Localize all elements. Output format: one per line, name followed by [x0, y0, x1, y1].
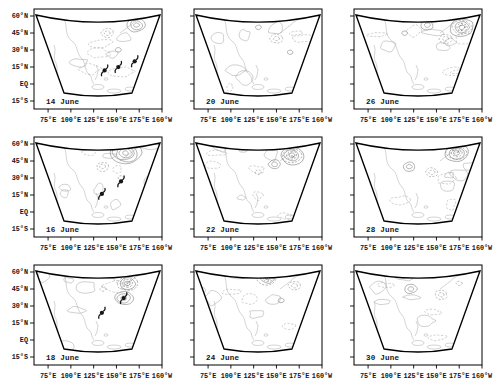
panel-canvas: 75°E100°E125°E150°E175°E160°W28 June	[322, 129, 482, 257]
panel-canvas: 75°E100°E125°E150°E175°E160°W20 June	[162, 1, 322, 129]
panel-grid: 60°N45°N30°N15°NEQ15°S75°E100°E125°E150°…	[2, 1, 482, 385]
lon-tick-label: 100°E	[381, 244, 401, 252]
lon-tick-label: 175°E	[289, 372, 309, 380]
date-label: 22 June	[206, 226, 240, 234]
panel-canvas: 75°E100°E125°E150°E175°E160°W30 June	[322, 257, 482, 385]
lon-tick-label: 125°E	[83, 244, 103, 252]
lon-tick-label: 150°E	[106, 372, 126, 380]
lat-tick-label: 30°N	[12, 46, 28, 54]
lon-tick-label: 75°E	[360, 244, 376, 252]
map-panel-18-june: 60°N45°N30°N15°NEQ15°S75°E100°E125°E150°…	[2, 257, 162, 385]
lat-tick-label: EQ	[20, 80, 28, 88]
lat-tick-label: EQ	[20, 336, 28, 344]
panel-canvas: 60°N45°N30°N15°NEQ15°S75°E100°E125°E150°…	[2, 257, 162, 385]
date-label: 20 June	[206, 98, 240, 106]
lon-tick-label: 125°E	[83, 372, 103, 380]
panel-canvas: 60°N45°N30°N15°NEQ15°S75°E100°E125°E150°…	[2, 1, 162, 129]
lon-tick-label: 175°E	[449, 116, 469, 124]
lon-tick-label: 75°E	[200, 372, 216, 380]
lon-tick-label: 125°E	[243, 372, 263, 380]
lon-tick-label: 75°E	[40, 372, 56, 380]
lon-tick-label: 125°E	[243, 244, 263, 252]
lat-tick-label: 15°S	[12, 353, 28, 361]
date-label: 18 June	[46, 354, 80, 362]
lon-tick-label: 125°E	[403, 244, 423, 252]
multi-panel-contour-figure: 60°N45°N30°N15°NEQ15°S75°E100°E125°E150°…	[0, 0, 494, 386]
lon-tick-label: 150°E	[266, 372, 286, 380]
panel-frame	[194, 265, 322, 365]
lat-tick-label: 15°N	[12, 191, 28, 199]
lon-tick-label: 100°E	[381, 116, 401, 124]
lat-tick-label: 60°N	[12, 268, 28, 276]
lon-tick-label: 150°E	[426, 372, 446, 380]
map-panel-28-june: 75°E100°E125°E150°E175°E160°W28 June	[322, 129, 482, 257]
panel-frame	[194, 9, 322, 109]
lon-tick-label: 75°E	[200, 116, 216, 124]
map-panel-16-june: 60°N45°N30°N15°NEQ15°S75°E100°E125°E150°…	[2, 129, 162, 257]
lon-tick-label: 150°E	[106, 244, 126, 252]
panel-canvas: 75°E100°E125°E150°E175°E160°W24 June	[162, 257, 322, 385]
lat-tick-label: 30°N	[12, 302, 28, 310]
date-label: 14 June	[46, 98, 80, 106]
lon-tick-label: 100°E	[221, 372, 241, 380]
date-label: 24 June	[206, 354, 240, 362]
lat-tick-label: 45°N	[12, 29, 28, 37]
lat-tick-label: 45°N	[12, 285, 28, 293]
panel-canvas: 75°E100°E125°E150°E175°E160°W26 June	[322, 1, 482, 129]
panel-frame	[34, 265, 162, 365]
lat-tick-label: 45°N	[12, 157, 28, 165]
lon-tick-label: 175°E	[289, 244, 309, 252]
lon-tick-label: 125°E	[403, 372, 423, 380]
lat-tick-label: 15°N	[12, 319, 28, 327]
lon-tick-label: 75°E	[360, 116, 376, 124]
panel-frame	[34, 137, 162, 237]
date-label: 16 June	[46, 226, 80, 234]
lat-tick-label: 60°N	[12, 140, 28, 148]
panel-canvas: 75°E100°E125°E150°E175°E160°W22 June	[162, 129, 322, 257]
lat-tick-label: 15°S	[12, 225, 28, 233]
lon-tick-label: 160°W	[472, 372, 493, 380]
lon-tick-label: 100°E	[221, 244, 241, 252]
lon-tick-label: 100°E	[381, 372, 401, 380]
lon-tick-label: 75°E	[360, 372, 376, 380]
lon-tick-label: 100°E	[61, 116, 81, 124]
panel-frame	[354, 9, 482, 109]
lon-tick-label: 175°E	[129, 372, 149, 380]
panel-frame	[194, 137, 322, 237]
map-panel-24-june: 75°E100°E125°E150°E175°E160°W24 June	[162, 257, 322, 385]
lon-tick-label: 150°E	[266, 244, 286, 252]
lat-tick-label: 30°N	[12, 174, 28, 182]
lon-tick-label: 75°E	[40, 116, 56, 124]
panel-canvas: 60°N45°N30°N15°NEQ15°S75°E100°E125°E150°…	[2, 129, 162, 257]
lat-tick-label: 15°S	[12, 97, 28, 105]
lon-tick-label: 150°E	[426, 244, 446, 252]
lon-tick-label: 75°E	[40, 244, 56, 252]
map-panel-26-june: 75°E100°E125°E150°E175°E160°W26 June	[322, 1, 482, 129]
lon-tick-label: 125°E	[243, 116, 263, 124]
map-panel-30-june: 75°E100°E125°E150°E175°E160°W30 June	[322, 257, 482, 385]
lon-tick-label: 160°W	[472, 116, 493, 124]
date-label: 28 June	[366, 226, 400, 234]
lon-tick-label: 100°E	[61, 372, 81, 380]
map-panel-22-june: 75°E100°E125°E150°E175°E160°W22 June	[162, 129, 322, 257]
lon-tick-label: 175°E	[129, 244, 149, 252]
lon-tick-label: 175°E	[449, 244, 469, 252]
lon-tick-label: 175°E	[289, 116, 309, 124]
lon-tick-label: 75°E	[200, 244, 216, 252]
lon-tick-label: 125°E	[83, 116, 103, 124]
lon-tick-label: 125°E	[403, 116, 423, 124]
lon-tick-label: 150°E	[426, 116, 446, 124]
lon-tick-label: 175°E	[449, 372, 469, 380]
lon-tick-label: 100°E	[221, 116, 241, 124]
map-panel-20-june: 75°E100°E125°E150°E175°E160°W20 June	[162, 1, 322, 129]
lon-tick-label: 150°E	[266, 116, 286, 124]
lon-tick-label: 160°W	[472, 244, 493, 252]
panel-frame	[34, 9, 162, 109]
lat-tick-label: 15°N	[12, 63, 28, 71]
lon-tick-label: 150°E	[106, 116, 126, 124]
lat-tick-label: EQ	[20, 208, 28, 216]
panel-frame	[354, 265, 482, 365]
lon-tick-label: 100°E	[61, 244, 81, 252]
date-label: 30 June	[366, 354, 400, 362]
map-panel-14-june: 60°N45°N30°N15°NEQ15°S75°E100°E125°E150°…	[2, 1, 162, 129]
